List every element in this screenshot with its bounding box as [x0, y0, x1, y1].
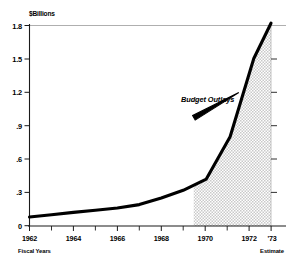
- y-tick-label-0: 0: [18, 222, 22, 231]
- right-axis-ticks: [271, 59, 277, 192]
- x-tick-label-1970: 1970: [198, 234, 213, 243]
- y-tick-label-1-8: 1.8: [12, 22, 22, 31]
- x-tick-label-1966: 1966: [110, 234, 125, 243]
- y-tick-label-0-9: .9: [16, 122, 22, 131]
- y-tick-label-0-6: .6: [16, 155, 22, 164]
- estimate-footnote: Estimate: [260, 248, 285, 254]
- x-tick-label-73: '73: [267, 234, 276, 243]
- x-tick-label-1968: 1968: [154, 234, 169, 243]
- y-tick-label-0-3: .3: [16, 188, 22, 197]
- y-tick-label-1-5: 1.5: [12, 55, 22, 64]
- x-tick-label-1964: 1964: [66, 234, 81, 243]
- chart-container: $Billions 1.8 1.5 1.2 .9 .6 .3 0 1962 19…: [0, 0, 300, 260]
- y-tick-label-1-2: 1.2: [12, 88, 22, 97]
- fiscal-years-footnote: Fiscal Years: [18, 248, 52, 254]
- y-axis-unit-label: $Billions: [29, 10, 55, 18]
- x-axis-ticks: [30, 226, 272, 231]
- x-tick-label-1972: 1972: [241, 234, 256, 243]
- y-axis-ticks: [25, 26, 30, 226]
- x-tick-label-1962: 1962: [22, 234, 37, 243]
- budget-outlays-annotation: Budget Outlays: [181, 95, 234, 104]
- budget-outlays-line-chart: $Billions 1.8 1.5 1.2 .9 .6 .3 0 1962 19…: [0, 0, 300, 260]
